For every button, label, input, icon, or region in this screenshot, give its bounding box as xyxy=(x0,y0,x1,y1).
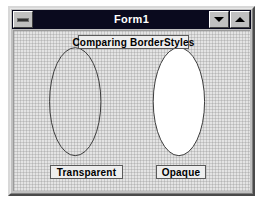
control-menu-bar-icon xyxy=(17,18,29,22)
heading-label: Comparing BorderStyles xyxy=(78,35,189,49)
maximize-button[interactable] xyxy=(230,11,250,28)
control-menu-box-button[interactable] xyxy=(13,11,33,28)
arrow-up-icon xyxy=(235,17,245,22)
form-client-area[interactable]: Comparing BorderStyles Transparent Opaqu… xyxy=(13,30,250,191)
minimize-button[interactable] xyxy=(209,11,229,28)
transparent-ellipse xyxy=(50,48,101,156)
transparent-label: Transparent xyxy=(50,165,123,179)
arrow-down-icon xyxy=(214,17,224,22)
opaque-label: Opaque xyxy=(156,165,206,179)
window-buttons xyxy=(208,11,250,28)
form-window: Form1 Comparing BorderStyles Transparent… xyxy=(8,6,255,196)
screenshot-root: Form1 Comparing BorderStyles Transparent… xyxy=(0,0,265,212)
opaque-ellipse xyxy=(153,48,204,156)
title-bar[interactable]: Form1 xyxy=(12,10,251,29)
